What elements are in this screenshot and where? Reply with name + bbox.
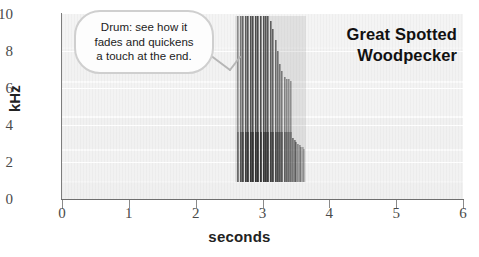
x-axis-tick-label: 0 bbox=[58, 205, 66, 222]
chart-title-line-1: Great Spotted bbox=[347, 24, 457, 45]
y-axis-tick-label: 0 bbox=[6, 191, 14, 208]
callout-line-1: Drum: see how it bbox=[83, 20, 205, 35]
annotation-callout: Drum: see how it fades and quickens a to… bbox=[74, 10, 214, 74]
y-axis-tick-label: 10 bbox=[0, 6, 13, 23]
spectrogram-figure: 0123456 0246810 seconds kHz Drum: see ho… bbox=[0, 0, 479, 257]
callout-line-2: fades and quickens bbox=[83, 35, 205, 50]
x-axis-title: seconds bbox=[0, 228, 479, 245]
callout-line-3: a touch at the end. bbox=[83, 49, 205, 64]
y-axis-line bbox=[61, 13, 62, 200]
x-axis-tick-label: 4 bbox=[326, 205, 334, 222]
y-axis-tick-label: 4 bbox=[6, 117, 14, 134]
x-axis-tick-label: 6 bbox=[459, 205, 467, 222]
chart-title-line-2: Woodpecker bbox=[347, 45, 457, 66]
x-axis-tick-label: 1 bbox=[125, 205, 133, 222]
x-axis-tick-label: 5 bbox=[392, 205, 400, 222]
chart-title: Great Spotted Woodpecker bbox=[347, 24, 457, 66]
drum-strike-core bbox=[303, 149, 305, 182]
x-axis-tick-label: 3 bbox=[259, 205, 267, 222]
y-axis-tick-label: 2 bbox=[6, 154, 14, 171]
x-axis-tick-label: 2 bbox=[192, 205, 200, 222]
y-axis-title: kHz bbox=[6, 85, 23, 112]
y-axis-tick-label: 8 bbox=[6, 43, 14, 60]
